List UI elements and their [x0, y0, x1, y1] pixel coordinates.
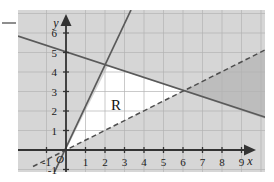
x-tick-label-8: 8	[219, 156, 225, 168]
y-tick-label-3: 3	[52, 86, 58, 98]
y-tick-label-2: 2	[52, 105, 58, 117]
x-tick-label-2: 2	[102, 156, 108, 168]
region-label-r: R	[111, 97, 121, 113]
x-tick-label-6: 6	[180, 156, 186, 168]
x-tick-label-4: 4	[141, 156, 147, 168]
x-tick-label-3: 3	[122, 156, 128, 168]
y-tick-label-5: 5	[52, 47, 58, 59]
coordinate-plane-svg: -1 1 2 3 4 5 6 7 8 9 -1 1 2 3 4 5 6 O y …	[0, 0, 274, 182]
x-tick-label-9: 9	[239, 156, 245, 168]
y-tick-label--1: -1	[48, 164, 57, 176]
graph-figure: -1 1 2 3 4 5 6 7 8 9 -1 1 2 3 4 5 6 O y …	[0, 0, 274, 182]
y-axis-label: y	[52, 16, 59, 30]
x-tick-label-7: 7	[200, 156, 206, 168]
y-tick-label-1: 1	[52, 125, 58, 137]
x-tick-label-5: 5	[161, 156, 167, 168]
x-axis-label: x	[246, 154, 253, 168]
x-tick-label-1: 1	[83, 156, 89, 168]
y-tick-label-4: 4	[52, 66, 58, 78]
left-margin-dash	[2, 22, 16, 24]
origin-label: O	[56, 153, 64, 165]
